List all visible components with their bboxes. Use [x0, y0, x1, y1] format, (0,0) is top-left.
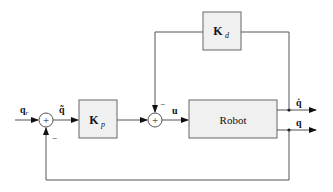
sum2-minus: − — [160, 99, 165, 109]
input-label: qr — [20, 104, 29, 117]
kd-label: K — [213, 24, 223, 38]
svg-text:K: K — [89, 113, 99, 127]
robot-label: Robot — [220, 114, 247, 126]
sum1-minus: − — [52, 133, 57, 143]
velocity-label: q̇ — [296, 97, 302, 108]
kp-subscript: p — [100, 120, 105, 129]
kd-block: K d — [203, 12, 241, 50]
sum1-plus: + — [43, 114, 49, 126]
svg-text:K: K — [213, 24, 223, 38]
position-label: q — [296, 117, 302, 128]
control-diagram: + − K p + − Robot K d qr q̃ u q̇ q — [0, 0, 333, 192]
kp-label: K — [89, 113, 99, 127]
robot-block: Robot — [189, 100, 277, 138]
error-label: q̃ — [59, 104, 65, 115]
summing-junction-1: + − — [39, 113, 57, 143]
control-label: u — [172, 105, 178, 116]
kp-block: K p — [79, 100, 117, 138]
kd-feedback-in-line — [241, 32, 289, 110]
sum2-plus: + — [152, 114, 158, 126]
summing-junction-2: + − — [148, 99, 165, 127]
